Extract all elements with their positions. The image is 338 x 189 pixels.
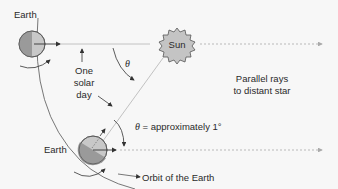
solar-day-label-1: One	[75, 65, 93, 76]
sun-label: Sun	[169, 39, 186, 50]
earth-bottom-up-arrow	[100, 129, 105, 136]
earth-bottom-label: Earth	[44, 144, 67, 155]
parallel-rays-label-1: Parallel rays	[236, 73, 289, 84]
solar-day-label-2: solar	[74, 77, 95, 88]
orbit-label: Orbit of the Earth	[142, 172, 214, 183]
approx-text: = approximately 1°	[140, 121, 222, 132]
parallel-rays-label-2: to distant star	[233, 85, 290, 96]
earth-top-label: Earth	[14, 9, 37, 20]
theta-approx-label: θ = approximately 1°	[135, 121, 222, 132]
orbit-arrow	[118, 174, 140, 177]
theta-arc-top	[113, 48, 134, 80]
earth-bottom-icon	[78, 136, 107, 165]
solar-day-label-3: day	[76, 89, 92, 100]
solar-day-diagram: Sun θ One solar day Earth Parallel rays …	[0, 0, 338, 189]
theta-label-top: θ	[125, 58, 130, 69]
solar-day-arrow-down	[98, 96, 112, 106]
rotation-arrow-top	[20, 60, 50, 68]
